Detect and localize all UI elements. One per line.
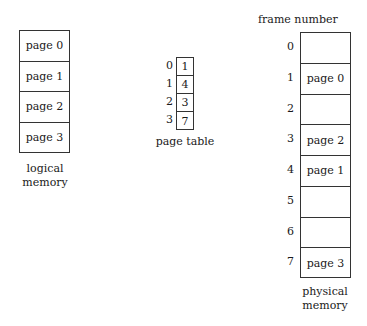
physical-frame-1: page 0: [301, 64, 350, 95]
physical-memory-label-line2: memory: [290, 299, 360, 313]
frame-number-4: 4: [284, 163, 294, 176]
logical-page-2: page 2: [20, 92, 69, 123]
frame-number-3: 3: [284, 132, 294, 145]
logical-memory-label-line2: memory: [10, 176, 80, 190]
logical-memory-label-line1: logical: [10, 162, 80, 176]
frame-number-0: 0: [284, 40, 294, 53]
logical-memory: page 0 page 1 page 2 page 3: [19, 30, 70, 153]
frame-number-5: 5: [284, 194, 294, 207]
page-table-entry-0: 1: [177, 58, 193, 76]
page-table-label: page table: [145, 135, 225, 149]
physical-frame-7: page 3: [301, 248, 350, 279]
frame-number-header: frame number: [258, 13, 348, 27]
page-table-index-3: 3: [163, 113, 173, 126]
page-table-index-0: 0: [163, 59, 173, 72]
frame-number-6: 6: [284, 225, 294, 238]
physical-frame-2: [301, 95, 350, 126]
physical-frame-6: [301, 218, 350, 249]
page-table-entry-2: 3: [177, 94, 193, 112]
frame-number-2: 2: [284, 102, 294, 115]
physical-frame-0: [301, 33, 350, 64]
logical-page-0: page 0: [20, 31, 69, 62]
physical-memory-label-line1: physical: [290, 285, 360, 299]
page-table-index-2: 2: [163, 95, 173, 108]
physical-frame-3: page 2: [301, 125, 350, 156]
page-table: 1 4 3 7: [176, 57, 194, 130]
physical-memory-label: physical memory: [290, 285, 360, 313]
page-table-entry-1: 4: [177, 76, 193, 94]
page-table-index-1: 1: [163, 77, 173, 90]
logical-page-3: page 3: [20, 123, 69, 154]
frame-number-1: 1: [284, 71, 294, 84]
frame-number-7: 7: [284, 255, 294, 268]
logical-memory-label: logical memory: [10, 162, 80, 190]
physical-frame-5: [301, 187, 350, 218]
physical-frame-4: page 1: [301, 156, 350, 187]
physical-memory: page 0 page 2 page 1 page 3: [300, 32, 351, 278]
logical-page-1: page 1: [20, 62, 69, 93]
page-table-entry-3: 7: [177, 112, 193, 130]
